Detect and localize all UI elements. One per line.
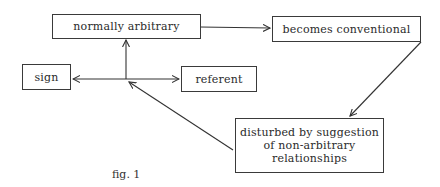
node-normally-arbitrary: normally arbitrary <box>52 14 201 39</box>
node-label: sign <box>34 71 58 84</box>
node-label: referent <box>195 73 242 86</box>
arrow-to-sign-referent-link <box>129 82 233 150</box>
node-label: normally arbitrary <box>73 20 179 33</box>
node-label: becomes conventional <box>283 23 411 36</box>
node-label-line-3: relationships <box>272 152 347 165</box>
node-sign: sign <box>22 64 71 90</box>
node-becomes-conventional: becomes conventional <box>272 16 421 42</box>
arrow-to-disturbed <box>350 42 421 116</box>
arrow-to-becomes-conventional <box>200 27 270 28</box>
node-disturbed: disturbed by suggestion of non-arbitrary… <box>235 118 384 173</box>
figure-caption: fig. 1 <box>112 168 140 181</box>
node-referent: referent <box>181 66 257 92</box>
node-label-line-1: disturbed by suggestion <box>240 126 379 139</box>
node-label-line-2: of non-arbitrary <box>264 139 356 152</box>
